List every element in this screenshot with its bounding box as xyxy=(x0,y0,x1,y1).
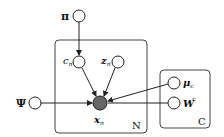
edge-z-x xyxy=(104,68,115,96)
edge-mu-x xyxy=(108,84,168,101)
label-z: zn xyxy=(100,55,111,67)
node-mu xyxy=(168,77,180,89)
node-pi xyxy=(73,10,85,22)
plate-n-label: N xyxy=(132,120,141,131)
edge-c-x xyxy=(82,68,96,96)
graphical-model-diagram: N C π cn zn xn Ψ μc Wc xyxy=(0,0,224,137)
node-psi xyxy=(29,97,41,109)
label-c: cn xyxy=(63,55,73,67)
label-w: Wc xyxy=(183,95,196,109)
label-pi: π xyxy=(61,10,69,23)
node-c xyxy=(73,56,85,68)
label-mu: μc xyxy=(183,77,194,89)
label-x: xn xyxy=(93,114,104,126)
plate-c-label: C xyxy=(198,116,206,127)
node-z xyxy=(112,56,124,68)
label-psi: Ψ xyxy=(16,97,26,110)
node-w xyxy=(168,97,180,109)
node-x-observed xyxy=(93,96,107,110)
